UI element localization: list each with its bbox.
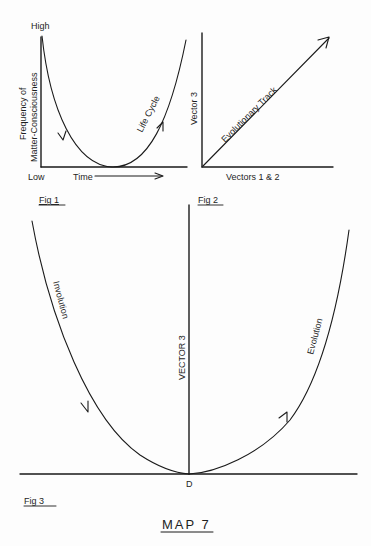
fig1-high-label: High (31, 21, 50, 31)
fig2-track-arrow-icon (318, 37, 329, 48)
diagram-canvas: High Low Time Frequency of Matter-Consci… (0, 0, 371, 546)
fig2-vector3-label: Vector 3 (189, 92, 199, 125)
fig2-evolutionary-track-chart: Vector 3 Vectors 1 & 2 Evolutionary Trac… (189, 33, 333, 205)
fig1-life-cycle-curve (42, 36, 186, 167)
fig2-track-label: Evolutionary Track (219, 85, 279, 145)
fig3-caption: Fig 3 (24, 496, 44, 506)
fig3-origin-label: D (186, 479, 193, 489)
map-title: MAP 7 (162, 517, 211, 532)
fig1-time-label: Time (73, 172, 93, 182)
fig2-caption: Fig 2 (198, 195, 218, 205)
fig3-evolution-arrow-icon (279, 412, 287, 422)
fig3-involution-arrow-icon (81, 401, 88, 412)
fig3-vector3-label: VECTOR 3 (177, 335, 187, 380)
fig3-involution-curve (32, 221, 189, 474)
fig1-y-title-line1: Frequency of (18, 87, 28, 140)
fig1-caption: Fig 1 (39, 195, 59, 205)
diagram-page: High Low Time Frequency of Matter-Consci… (0, 0, 371, 546)
fig3-evolution-label: Evolution (305, 317, 324, 355)
fig1-y-title-line2: Matter-Consciousness (29, 72, 39, 162)
fig3-evolution-curve (189, 230, 349, 474)
fig1-life-cycle-chart: High Low Time Frequency of Matter-Consci… (18, 21, 187, 205)
fig1-down-arrow-icon (58, 131, 66, 140)
fig2-vectors-label: Vectors 1 & 2 (226, 172, 280, 182)
fig3-involution-label: Involution (51, 280, 71, 320)
fig1-low-label: Low (28, 172, 45, 182)
fig3-involution-evolution-chart: VECTOR 3 Involution Evolution D Fig 3 (20, 205, 357, 506)
